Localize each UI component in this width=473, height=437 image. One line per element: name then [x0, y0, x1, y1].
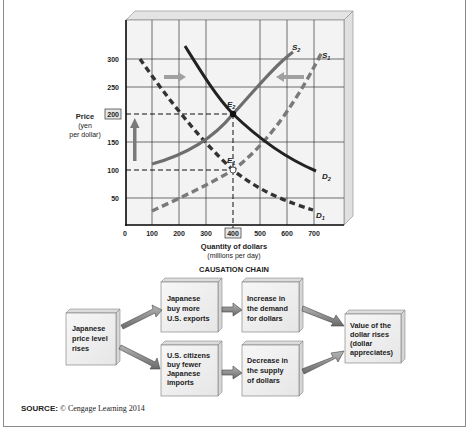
svg-text:for dollars: for dollars — [247, 314, 283, 323]
x-axis-title: Quantity of dollars — [201, 242, 267, 251]
x-tick: 400 — [227, 230, 239, 237]
x-tick: 500 — [254, 230, 266, 237]
y-tick: 150 — [107, 139, 119, 146]
causation-chain-title: CAUSATION CHAIN — [199, 265, 269, 274]
x-tick: 600 — [281, 230, 293, 237]
svg-text:Increase in: Increase in — [247, 294, 285, 303]
svg-text:of dollars: of dollars — [247, 376, 280, 385]
x-tick: 0 — [123, 230, 127, 237]
plot-panel — [126, 11, 353, 225]
causation-box-supply: Decrease in the supply of dollars — [242, 341, 303, 396]
arrow-demand-to-result — [302, 306, 344, 326]
y-tick: 100 — [107, 167, 119, 174]
x-tick: 300 — [200, 230, 212, 237]
y-tick: 50 — [111, 195, 119, 202]
y-axis-subtitle: per dollar) — [69, 131, 101, 139]
causation-box-imports: U.S. citizens buy fewer Japanese imports — [161, 341, 222, 396]
svg-text:price level: price level — [72, 334, 108, 343]
svg-text:buy fewer: buy fewer — [167, 360, 201, 369]
svg-text:(dollar: (dollar — [350, 339, 372, 348]
arrow-cause-to-exports — [121, 305, 162, 329]
svg-text:U.S. citizens: U.S. citizens — [167, 351, 210, 360]
y-tick: 200 — [107, 111, 119, 118]
svg-text:the demand: the demand — [247, 304, 288, 313]
equilibrium-e2-point — [230, 111, 236, 117]
svg-text:Japanese: Japanese — [167, 294, 200, 303]
arrow-exports-to-demand — [222, 303, 242, 316]
arrow-cause-to-imports — [119, 345, 160, 369]
source-label: SOURCE: — [21, 404, 58, 413]
y-tick: 300 — [107, 56, 119, 63]
y-tick: 250 — [107, 84, 119, 91]
causation-box-cause: Japanese price level rises — [66, 309, 120, 365]
y-tick-labels: 300 250 200 150 100 50 — [107, 56, 119, 202]
svg-text:Japanese: Japanese — [167, 369, 200, 378]
svg-text:Japanese: Japanese — [72, 324, 105, 333]
svg-text:buy more: buy more — [167, 304, 200, 313]
svg-text:appreciates): appreciates) — [350, 348, 394, 357]
causation-arrows — [119, 303, 344, 379]
arrow-supply-to-result — [302, 351, 344, 374]
causation-box-result: Value of the dollar rises (dollar apprec… — [345, 310, 405, 363]
source-credit: SOURCE: © Cengage Learning 2014 — [21, 404, 145, 413]
svg-text:U.S. exports: U.S. exports — [167, 314, 210, 323]
x-axis-subtitle: (millions per day) — [207, 252, 260, 260]
chart-and-diagram: 300 250 200 150 100 50 0 100 200 300 400… — [0, 0, 473, 437]
arrow-imports-to-supply — [222, 366, 242, 379]
source-text: © Cengage Learning 2014 — [58, 404, 145, 413]
svg-text:Value of the: Value of the — [350, 321, 391, 330]
x-tick: 100 — [146, 230, 158, 237]
svg-text:imports: imports — [167, 378, 194, 387]
x-tick-labels: 0 100 200 300 400 500 600 700 — [123, 230, 320, 237]
x-tick: 200 — [173, 230, 185, 237]
y-axis-title: Price — [76, 112, 94, 121]
y-axis-subtitle: (yen — [78, 122, 92, 130]
svg-text:Decrease in: Decrease in — [247, 356, 288, 365]
x-tick: 700 — [308, 230, 320, 237]
causation-box-demand: Increase in the demand for dollars — [242, 278, 303, 332]
equilibrium-e1-point — [230, 167, 236, 173]
causation-box-exports: Japanese buy more U.S. exports — [161, 278, 222, 332]
svg-text:the supply: the supply — [247, 366, 284, 375]
svg-text:rises: rises — [72, 344, 89, 353]
svg-text:dollar rises: dollar rises — [350, 330, 389, 339]
